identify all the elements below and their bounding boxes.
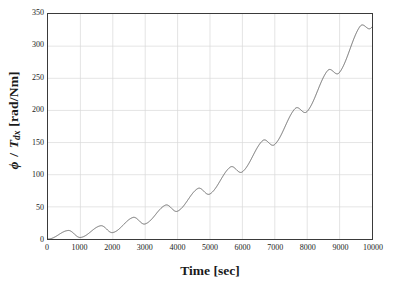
grid-lines	[48, 14, 372, 239]
y-tick-label: 250	[24, 74, 44, 82]
y-axis-title-text: ϕ / Tdx [rad/Nm]	[6, 71, 23, 169]
x-tick-label: 0	[45, 243, 49, 252]
y-tick-label: 0	[24, 236, 44, 244]
x-axis-title: Time [sec]	[47, 263, 373, 279]
x-tick-label: 2000	[104, 243, 120, 252]
plot-area	[47, 13, 373, 240]
y-axis-variable: T	[6, 140, 21, 148]
x-tick-label: 5000	[202, 243, 218, 252]
y-tick-label: 300	[24, 41, 44, 49]
x-tick-label: 9000	[332, 243, 348, 252]
y-axis-symbol: ϕ	[6, 161, 21, 169]
x-axis-tick-labels: 0100020003000400050006000700080009000100…	[47, 243, 373, 255]
x-tick-label: 3000	[137, 243, 153, 252]
chart-figure: ϕ / Tdx [rad/Nm] 050100150200250300350 0…	[0, 0, 399, 293]
y-tick-label: 50	[24, 204, 44, 212]
plot-canvas	[48, 14, 372, 239]
y-tick-label: 200	[24, 106, 44, 114]
y-axis-tick-labels: 050100150200250300350	[24, 13, 44, 240]
x-tick-label: 6000	[235, 243, 251, 252]
x-tick-label: 8000	[300, 243, 316, 252]
y-axis-units: [rad/Nm]	[6, 71, 21, 130]
x-tick-label: 1000	[72, 243, 88, 252]
y-tick-label: 100	[24, 171, 44, 179]
y-axis-separator: /	[6, 148, 21, 161]
y-axis-subscript: dx	[12, 130, 22, 140]
x-tick-label: 7000	[267, 243, 283, 252]
y-tick-label: 150	[24, 139, 44, 147]
x-tick-label: 10000	[363, 243, 383, 252]
y-tick-label: 350	[24, 9, 44, 17]
x-tick-label: 4000	[169, 243, 185, 252]
